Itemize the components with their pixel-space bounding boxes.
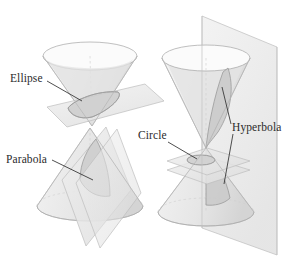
conic-sections-drawing: Ellipse Parabola [0,0,291,268]
parabola-label: Parabola [6,153,47,165]
circle-section [187,155,215,165]
ellipse-diagram-group: Ellipse [10,42,164,127]
double-cone-diagram-group: Circle Hyperbola [138,16,281,255]
hyperbola-label: Hyperbola [232,121,281,134]
ellipse-label: Ellipse [10,72,43,85]
conic-sections-figure: Ellipse Parabola [0,0,291,268]
parabola-diagram-group: Parabola [6,127,143,248]
circle-label: Circle [138,129,167,141]
